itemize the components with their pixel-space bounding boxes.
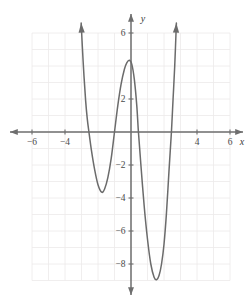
y-axis-label: y	[140, 13, 146, 24]
axis-arrowhead-down	[128, 287, 134, 295]
curve-path	[81, 23, 176, 280]
curve-arrowhead	[173, 23, 179, 33]
y-tick-label: 6	[121, 28, 126, 38]
x-axis-label: x	[239, 136, 245, 147]
coordinate-plane: −6−44662−2−4−6−8 x y	[0, 0, 252, 301]
axis-arrowhead-up	[128, 14, 134, 22]
x-tick-label: −6	[27, 137, 37, 147]
y-tick-label: −8	[115, 259, 125, 269]
x-tick-label: 4	[195, 137, 200, 147]
axes	[10, 14, 243, 295]
axis-arrowhead-right	[235, 129, 243, 135]
y-tick-label: −2	[115, 160, 125, 170]
graph-figure: −6−44662−2−4−6−8 x y	[0, 0, 252, 301]
y-tick-label: 2	[121, 94, 126, 104]
x-tick-label: −4	[60, 137, 70, 147]
axis-arrowhead-left	[10, 129, 18, 135]
y-tick-label: −6	[115, 226, 125, 236]
curve-arrowhead	[79, 23, 85, 33]
y-tick-label: −4	[115, 193, 125, 203]
x-tick-label: 6	[228, 137, 233, 147]
